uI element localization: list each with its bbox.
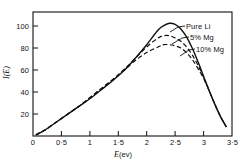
x-axis-title: E(ev) — [0, 150, 246, 159]
x-tick-label-1-5: 1·5 — [108, 138, 129, 147]
x-axis-title-unit: (ev) — [119, 150, 132, 159]
x-tick-label-0: 0 — [23, 138, 43, 147]
y-tick-label-100: 100 — [2, 22, 29, 31]
y-axis-ticks — [33, 26, 38, 114]
y-tick-label-20: 20 — [2, 110, 29, 119]
series-curve-10-mg — [36, 44, 226, 134]
x-tick-label-3: 3 — [194, 138, 214, 147]
x-tick-label-2-5: 2·5 — [165, 138, 186, 147]
figure-panel: 100 80 60 40 20 0 0·5 1 1·5 2 2·5 3 3·5 … — [0, 0, 246, 168]
series-label-pure-li: Pure Li — [186, 22, 210, 31]
x-tick-label-1: 1 — [80, 138, 100, 147]
y-axis-title: I(E) — [2, 51, 11, 95]
x-tick-label-3-5: 3·5 — [222, 138, 243, 147]
series-label-5-mg: 5% Mg — [190, 33, 214, 42]
series-label-10-mg: 10% Mg — [196, 45, 224, 54]
x-tick-label-0-5: 0·5 — [51, 138, 72, 147]
x-axis-ticks — [61, 131, 203, 136]
x-tick-label-2: 2 — [137, 138, 157, 147]
